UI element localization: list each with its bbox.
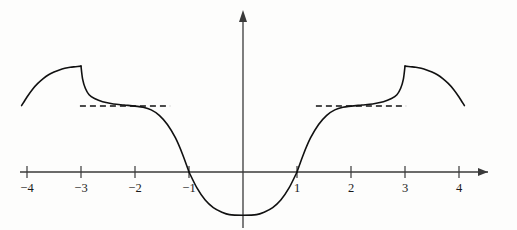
x-axis-tick-label: −3 — [66, 181, 96, 196]
curve-branch-right-outer — [405, 66, 464, 105]
x-axis-tick-label: −1 — [174, 181, 204, 196]
function-graph-figure: −4−3−2−11234 — [0, 0, 517, 230]
curve-branch-left-inner — [81, 66, 189, 172]
x-axis-tick-label: 3 — [390, 181, 420, 196]
x-axis-tick-label: 4 — [444, 181, 474, 196]
y-axis-arrow-icon — [239, 10, 247, 22]
y-axis — [239, 10, 247, 228]
x-axis — [20, 166, 488, 178]
curve-branch-left-outer — [22, 66, 81, 105]
x-axis-tick-label: −2 — [120, 181, 150, 196]
x-axis-tick-label: 1 — [282, 181, 312, 196]
x-axis-tick-label: −4 — [12, 181, 42, 196]
x-axis-tick-label: 2 — [336, 181, 366, 196]
x-axis-arrow-icon — [478, 168, 488, 176]
curve-branch-right-inner — [297, 66, 405, 172]
